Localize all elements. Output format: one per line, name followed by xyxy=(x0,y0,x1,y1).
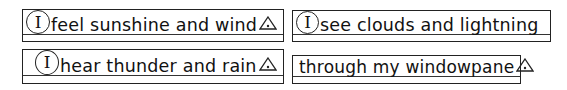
triangle-dot-icon xyxy=(516,57,534,76)
sentence-strip-3: I hear thunder and rain xyxy=(22,49,284,84)
circled-pronoun: I xyxy=(35,50,59,75)
circled-pronoun: I xyxy=(26,10,50,34)
sentence-strip-1: I feel sunshine and wind xyxy=(22,9,284,42)
sentence-strip-4: through my windowpane xyxy=(292,55,521,84)
sentence-text: feel sunshine and wind xyxy=(51,17,257,35)
triangle-dot-icon xyxy=(259,56,277,75)
sentence-strip-2: I see clouds and lightning xyxy=(292,10,551,42)
circled-pronoun: I xyxy=(296,11,319,34)
sentence-text: hear thunder and rain xyxy=(60,58,257,76)
sentence-text: see clouds and lightning xyxy=(320,17,539,35)
triangle-dot-icon xyxy=(259,15,277,34)
sentence-text: through my windowpane xyxy=(299,59,514,76)
